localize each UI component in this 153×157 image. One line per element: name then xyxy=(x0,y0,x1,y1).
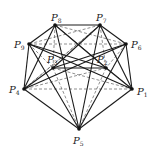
solid-edge-P8-P5 xyxy=(55,25,79,129)
vertex-label-p1: P1 xyxy=(136,86,148,98)
vertex-p7 xyxy=(98,23,102,27)
vertex-p4 xyxy=(22,87,26,91)
solid-edge-P4-P6 xyxy=(24,44,126,89)
solid-edges xyxy=(24,25,132,129)
vertex-p9 xyxy=(27,42,31,46)
solid-edge-P7-P6 xyxy=(100,25,126,44)
vertex-label-p8: P8 xyxy=(50,12,62,24)
vertex-p1 xyxy=(130,87,134,91)
vertex-label-p7: P7 xyxy=(95,12,107,24)
vertex-p8 xyxy=(53,23,57,27)
vertex-label-p6: P6 xyxy=(130,39,142,51)
solid-edge-P9-P4 xyxy=(24,44,29,89)
vertex-p3 xyxy=(51,66,55,70)
solid-edge-P8-P9 xyxy=(29,25,55,44)
solid-edge-P1-P9 xyxy=(29,44,132,89)
vertex-label-p2: P2 xyxy=(96,54,108,66)
solid-edge-P1-P2 xyxy=(106,68,132,89)
vertex-label-p5: P5 xyxy=(72,135,84,147)
vertex-label-p4: P4 xyxy=(8,84,20,96)
complete-graph-diagram: P1P2P3P4P5P6P7P8P9 xyxy=(0,0,153,157)
vertex-p5 xyxy=(77,127,81,131)
vertex-p2 xyxy=(104,66,108,70)
vertex-p6 xyxy=(124,42,128,46)
dashed-edge-P2-P5 xyxy=(79,68,106,129)
solid-edge-P1-P5 xyxy=(79,89,132,129)
vertex-label-p9: P9 xyxy=(13,39,25,51)
